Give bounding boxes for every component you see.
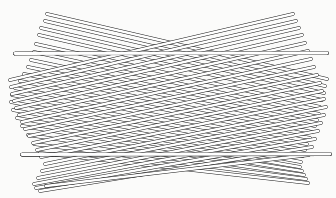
crossed-rods-illustration [0,0,336,198]
horizontal-rod-lower-overlay-body [22,154,330,155]
horizontal-rod-lower-overlay [22,154,330,155]
horizontal-rod-upper-overlay [15,53,327,54]
horizontal-rod-upper-overlay-body [15,53,327,54]
figure-canvas-container [0,0,336,198]
